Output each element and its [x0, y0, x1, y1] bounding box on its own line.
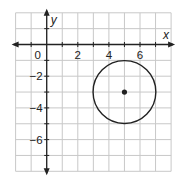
y-tick-label: −6 — [30, 134, 43, 146]
y-tick-label: −2 — [30, 70, 43, 82]
x-tick-label: 4 — [106, 49, 113, 61]
x-tick-label: 2 — [75, 49, 81, 61]
x-axis-label: x — [162, 28, 170, 42]
coordinate-plane: 0246−2−4−6 x y — [0, 0, 179, 183]
center-point — [122, 89, 127, 94]
x-tick-label: 0 — [34, 49, 40, 61]
y-tick-label: −4 — [30, 102, 44, 114]
x-tick-label: 6 — [137, 49, 143, 61]
y-axis-label: y — [50, 13, 58, 27]
